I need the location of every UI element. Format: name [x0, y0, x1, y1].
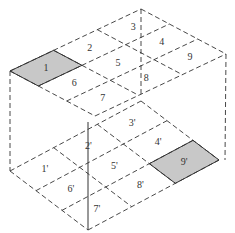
cell-label: 3 — [131, 21, 136, 32]
cell-label: 5' — [111, 160, 118, 171]
cell-label: 5 — [116, 57, 121, 68]
cell-label: 1 — [44, 62, 49, 73]
grid-line — [97, 124, 175, 183]
cell-label: 9' — [181, 156, 188, 167]
grid-line — [10, 171, 88, 230]
grid-line — [54, 148, 132, 207]
cell-label: 6 — [72, 77, 77, 88]
cell-label: 3' — [129, 117, 136, 128]
cell-label: 4 — [159, 36, 164, 47]
box-diagram: 1234567891'2'3'4'5'6'7'8'9' — [0, 0, 235, 233]
cell-label: 2 — [87, 42, 92, 53]
cell-label: 9 — [188, 51, 193, 62]
cell-label: 4' — [155, 136, 162, 147]
grid-line — [10, 101, 141, 171]
cell-label: 8' — [137, 179, 144, 190]
grid-line — [36, 121, 167, 191]
cell-label: 2' — [85, 140, 92, 151]
vertical-edge — [225, 54, 226, 160]
cell-label: 6' — [67, 183, 74, 194]
cell-label: 7 — [100, 92, 105, 103]
cell-label: 7' — [93, 203, 100, 214]
cell-label: 8 — [144, 72, 149, 83]
grid-line — [141, 9, 226, 54]
cell-label: 1' — [41, 163, 48, 174]
